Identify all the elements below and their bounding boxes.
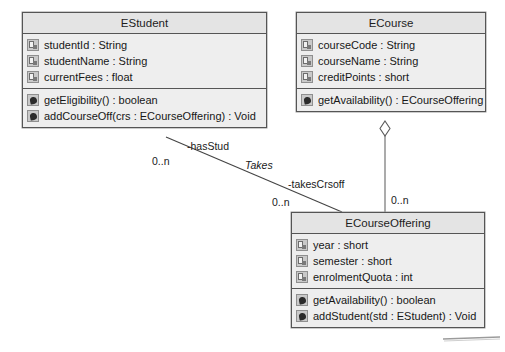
attribute-icon	[301, 55, 313, 67]
attribute-row[interactable]: creditPoints : short	[297, 69, 485, 85]
method-icon	[27, 110, 39, 122]
attribute-label: courseName : String	[318, 55, 418, 67]
attribute-row[interactable]: courseCode : String	[297, 37, 485, 53]
attribute-icon	[296, 239, 308, 251]
class-title-estudent: EStudent	[23, 13, 266, 34]
operation-row[interactable]: addStudent(std : EStudent) : Void	[292, 308, 484, 324]
multiplicity-offering-end: 0..n	[272, 196, 290, 208]
attribute-label: enrolmentQuota : int	[313, 271, 413, 283]
operation-row[interactable]: addCourseOff(crs : ECourseOffering) : Vo…	[23, 108, 266, 124]
attribute-icon	[301, 71, 313, 83]
aggregation-diamond-icon	[380, 121, 390, 136]
operation-label: getAvailability() : ECourseOffering	[318, 94, 483, 106]
attribute-row[interactable]: enrolmentQuota : int	[292, 269, 484, 285]
operations-compartment-ecourse: getAvailability() : ECourseOffering	[297, 88, 485, 111]
attribute-label: currentFees : float	[44, 71, 133, 83]
operations-compartment-ecourseoffering: getAvailability() : boolean addStudent(s…	[292, 288, 484, 327]
multiplicity-student-end: 0..n	[152, 155, 170, 167]
attribute-icon	[296, 271, 308, 283]
attribute-row[interactable]: studentName : String	[23, 53, 266, 69]
association-name-takes: Takes	[245, 159, 273, 171]
attribute-row[interactable]: currentFees : float	[23, 69, 266, 85]
operation-label: getEligibility() : boolean	[44, 94, 158, 106]
attribute-icon	[27, 55, 39, 67]
method-icon	[27, 94, 39, 106]
attribute-label: studentName : String	[44, 55, 147, 67]
multiplicity-aggregation-end: 0..n	[391, 194, 409, 206]
role-label-takes-crsoff: -takesCrsoff	[288, 178, 344, 190]
method-icon	[296, 310, 308, 322]
class-box-ecourseoffering[interactable]: ECourseOffering year : short semester : …	[291, 212, 485, 328]
operation-row[interactable]: getAvailability() : boolean	[292, 292, 484, 308]
operation-row[interactable]: getEligibility() : boolean	[23, 92, 266, 108]
class-box-estudent[interactable]: EStudent studentId : String studentName …	[22, 12, 267, 128]
attribute-label: year : short	[313, 239, 368, 251]
attributes-compartment-ecourse: courseCode : String courseName : String …	[297, 34, 485, 88]
attribute-row[interactable]: courseName : String	[297, 53, 485, 69]
attribute-icon	[27, 39, 39, 51]
attribute-label: semester : short	[313, 255, 392, 267]
operations-compartment-estudent: getEligibility() : boolean addCourseOff(…	[23, 88, 266, 127]
class-title-ecourseoffering: ECourseOffering	[292, 213, 484, 234]
operation-row[interactable]: getAvailability() : ECourseOffering	[297, 92, 485, 108]
attribute-icon	[301, 39, 313, 51]
method-icon	[296, 294, 308, 306]
attribute-row[interactable]: year : short	[292, 237, 484, 253]
class-title-ecourse: ECourse	[297, 13, 485, 34]
bottom-right-rule	[443, 337, 500, 339]
role-label-has-stud: -hasStud	[187, 140, 229, 152]
attribute-icon	[296, 255, 308, 267]
attribute-label: studentId : String	[44, 39, 127, 51]
attribute-label: courseCode : String	[318, 39, 415, 51]
operation-label: addCourseOff(crs : ECourseOffering) : Vo…	[44, 110, 256, 122]
class-box-ecourse[interactable]: ECourse courseCode : String courseName :…	[296, 12, 486, 112]
attribute-row[interactable]: semester : short	[292, 253, 484, 269]
operation-label: addStudent(std : EStudent) : Void	[313, 310, 476, 322]
attributes-compartment-estudent: studentId : String studentName : String …	[23, 34, 266, 88]
attribute-icon	[27, 71, 39, 83]
attribute-row[interactable]: studentId : String	[23, 37, 266, 53]
operation-label: getAvailability() : boolean	[313, 294, 436, 306]
attributes-compartment-ecourseoffering: year : short semester : short enrolmentQ…	[292, 234, 484, 288]
attribute-label: creditPoints : short	[318, 71, 409, 83]
method-icon	[301, 94, 313, 106]
